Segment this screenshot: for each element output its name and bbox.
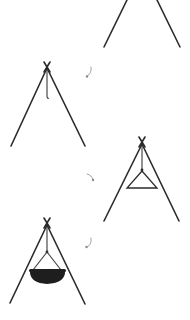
tripod-leg-left [104, 0, 127, 47]
pot-rim [29, 269, 66, 272]
step-4-tripod-pot [10, 218, 85, 304]
curved-arrow-icon [86, 67, 91, 78]
step-1-tripod [104, 0, 180, 47]
tripod-leg-left [11, 68, 47, 146]
tripod-assembly-diagram [0, 0, 190, 320]
cooking-pot [30, 270, 65, 284]
triangle-hanger [127, 171, 157, 188]
step-3-tripod-hanger [104, 137, 179, 221]
curved-arrow-icon [87, 174, 94, 181]
tripod-leg-left [10, 225, 47, 303]
step-2-tripod-hook [11, 62, 85, 146]
tripod-leg-right [157, 0, 180, 47]
pot-handle-right [47, 252, 61, 270]
tripod-leg-left [104, 144, 142, 221]
pot-handle-left [33, 252, 47, 270]
hook-icon [47, 96, 49, 98]
tripod-leg-right [47, 225, 85, 304]
curved-arrow-icon [85, 238, 91, 248]
tripod-leg-right [47, 68, 85, 146]
tripod-leg-right [142, 144, 179, 221]
